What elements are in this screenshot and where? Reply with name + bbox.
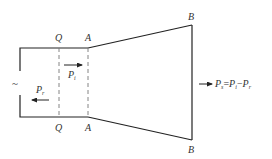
waveguide-bottom-wall	[20, 95, 88, 117]
source-tilde-icon: ~	[12, 77, 18, 89]
label-b-top: B	[188, 11, 194, 22]
label-a-top: A	[84, 32, 92, 43]
horn-section	[88, 25, 192, 140]
transmitted-power-equation: Ps=Pi−Pr	[214, 78, 252, 90]
horn-bottom-flare	[88, 117, 192, 140]
horn-top-flare	[88, 25, 192, 48]
incident-power-label: Pi	[67, 69, 76, 81]
label-q-top: Q	[55, 32, 63, 43]
reflected-power-label: Pr	[35, 84, 45, 96]
label-a-bottom: A	[84, 122, 92, 133]
waveguide-top-wall	[20, 48, 88, 71]
waveguide-section	[20, 48, 88, 117]
horn-antenna-diagram: Q A B Q A B ~ Pi Pr Ps=Pi−Pr	[0, 0, 272, 159]
label-q-bottom: Q	[55, 122, 63, 133]
label-b-bottom: B	[188, 144, 194, 155]
